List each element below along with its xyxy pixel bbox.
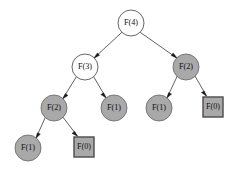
node-label: F(4): [124, 18, 138, 27]
tree-node-f1-bottom[interactable]: F(1): [15, 135, 41, 161]
tree-node-f4-root[interactable]: F(4): [118, 10, 144, 36]
edge-n0-n2: [140, 32, 177, 58]
node-label: F(1): [152, 103, 166, 112]
edge-n2-n6: [195, 76, 207, 96]
node-label: F(0): [77, 142, 91, 151]
tree-node-f2-right[interactable]: F(2): [173, 54, 199, 80]
arrow-head-icon: [201, 91, 206, 96]
arrow-head-icon: [167, 93, 172, 99]
node-label: F(0): [206, 102, 220, 111]
node-label: F(1): [107, 103, 121, 112]
arrow-head-icon: [63, 94, 68, 99]
node-label: F(3): [78, 62, 92, 71]
edge-n2-n5: [167, 76, 178, 98]
tree-node-f2-left[interactable]: F(2): [41, 95, 67, 121]
arrow-head-icon: [72, 131, 78, 136]
tree-node-f3[interactable]: F(3): [72, 54, 98, 80]
node-label: F(2): [179, 62, 193, 71]
node-group: F(4) F(3) F(2) F(2) F(1): [15, 10, 223, 161]
tree-canvas: F(4) F(3) F(2) F(2) F(1): [0, 0, 241, 179]
edge-group: [36, 32, 207, 138]
tree-node-f1-mid[interactable]: F(1): [101, 95, 127, 121]
arrow-head-icon: [101, 93, 106, 98]
edge-n3-n8: [63, 117, 78, 136]
tree-node-f0-right[interactable]: F(0): [203, 97, 223, 117]
node-label: F(2): [47, 103, 61, 112]
edge-n1-n3: [63, 77, 77, 100]
recursion-tree-figure: F(4) F(3) F(2) F(2) F(1): [0, 0, 241, 179]
edge-n0-n1: [94, 32, 122, 58]
edge-n1-n4: [94, 77, 107, 99]
node-label: F(1): [21, 143, 35, 152]
tree-node-f0-bottom[interactable]: F(0): [74, 137, 94, 157]
tree-node-f1-right[interactable]: F(1): [146, 95, 172, 121]
edge-n3-n7: [36, 117, 46, 139]
